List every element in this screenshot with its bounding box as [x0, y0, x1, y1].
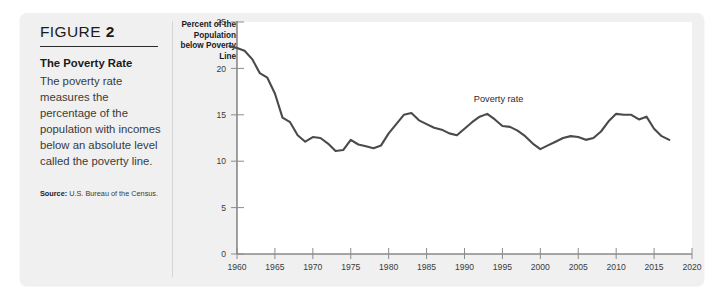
figure-description: The poverty rate measures the percentage…	[40, 73, 162, 169]
x-tick-label: 2005	[569, 262, 588, 272]
x-tick-label: 2010	[607, 262, 626, 272]
x-tick-label: 1975	[341, 262, 360, 272]
y-tick-label: 20	[216, 64, 226, 74]
chart-annotations: Poverty rate	[474, 94, 524, 104]
x-tick-label: 2000	[531, 262, 550, 272]
y-tick-label: 25	[216, 17, 226, 27]
axes-group	[237, 21, 692, 254]
figure-title: The Poverty Rate	[40, 56, 162, 71]
figure-label-rule	[40, 46, 158, 47]
x-tick-label: 1990	[455, 262, 474, 272]
x-tick-label: 2020	[682, 262, 701, 272]
figure-screenshot: FIGURE 2 The Poverty Rate The poverty ra…	[0, 0, 724, 305]
y-tick-label: 10	[216, 156, 226, 166]
figure-caption: FIGURE 2 The Poverty Rate The poverty ra…	[40, 23, 162, 273]
y-tick-label: 5	[221, 203, 226, 213]
figure-label: FIGURE 2	[40, 23, 162, 46]
x-tick-label: 1970	[303, 262, 322, 272]
x-tick-label: 1965	[265, 262, 284, 272]
figure-source-label: Source:	[40, 189, 67, 198]
poverty-rate-line-chart: 0510152025 19601965197019751980198519901…	[174, 13, 704, 285]
chart-container: Percent of thePopulationbelow PovertyLin…	[174, 13, 704, 285]
series-annotation-label: Poverty rate	[474, 94, 524, 104]
y-tick-label: 0	[221, 249, 226, 259]
figure-label-prefix: FIGURE	[40, 23, 101, 40]
y-axis-ticks: 0510152025	[216, 17, 244, 259]
x-axis-ticks: 1960196519701975198019851990199520002005…	[227, 248, 701, 272]
x-tick-label: 2015	[645, 262, 664, 272]
data-series-group	[229, 46, 669, 151]
x-tick-label: 1985	[417, 262, 436, 272]
figure-source: Source: U.S. Bureau of the Census.	[40, 189, 175, 198]
x-tick-label: 1980	[379, 262, 398, 272]
figure-source-text: U.S. Bureau of the Census.	[69, 189, 158, 198]
x-tick-label: 1960	[227, 262, 246, 272]
y-tick-label: 15	[216, 110, 226, 120]
figure-label-number: 2	[106, 23, 115, 40]
x-tick-label: 1995	[493, 262, 512, 272]
poverty-rate-line	[229, 46, 669, 151]
figure-card: FIGURE 2 The Poverty Rate The poverty ra…	[20, 13, 704, 285]
